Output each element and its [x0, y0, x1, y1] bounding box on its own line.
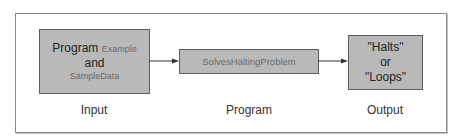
arrow-program-to-output — [318, 59, 348, 64]
caption-program: Program — [179, 103, 319, 117]
caption-input: Input — [39, 103, 149, 117]
caption-output: Output — [348, 103, 422, 117]
arrow-input-to-program — [149, 59, 179, 64]
flow-arrows — [0, 0, 457, 140]
